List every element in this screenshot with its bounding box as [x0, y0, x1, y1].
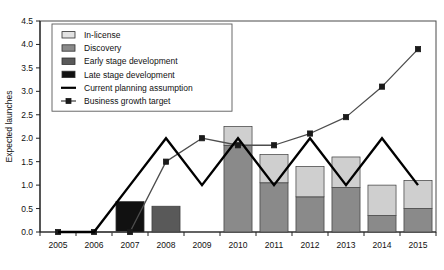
y-axis: 0.00.51.01.52.02.53.03.54.04.5: [21, 16, 40, 237]
bar-segment: [332, 187, 360, 232]
data-point-marker: [271, 143, 276, 148]
bar-group: [152, 206, 180, 232]
x-axis-tick-label: 2013: [337, 240, 356, 250]
bar-group: [296, 166, 324, 232]
data-point-marker: [415, 47, 420, 52]
bar-segment: [296, 197, 324, 232]
data-point-marker: [127, 229, 132, 234]
x-axis-tick-label: 2005: [49, 240, 68, 250]
bar-segment: [368, 185, 396, 215]
legend-swatch-box: [62, 32, 75, 38]
legend-swatch-box: [62, 45, 75, 51]
chart-figure: 0.00.51.01.52.02.53.03.54.04.5Expected l…: [0, 0, 444, 270]
x-axis-tick-label: 2014: [373, 240, 392, 250]
y-axis-title: Expected launches: [4, 91, 14, 163]
y-axis-tick-label: 2.0: [21, 133, 33, 143]
bar-segment: [260, 155, 288, 183]
data-point-marker: [343, 115, 348, 120]
data-point-marker: [199, 136, 204, 141]
y-axis-tick-label: 3.5: [21, 63, 33, 73]
legend-swatch-box: [62, 58, 75, 64]
x-axis: 2005200620072008200920102011201220132014…: [40, 232, 436, 250]
legend-item-label: Discovery: [84, 43, 122, 53]
y-axis-tick-label: 0.5: [21, 204, 33, 214]
chart-legend: In-licenseDiscoveryEarly stage developme…: [52, 24, 232, 111]
data-point-marker: [307, 131, 312, 136]
legend-item-label: In-license: [84, 30, 121, 40]
legend-item-label: Business growth target: [84, 96, 171, 106]
y-axis-tick-label: 4.5: [21, 16, 33, 26]
expected-launches-chart: 0.00.51.01.52.02.53.03.54.04.5Expected l…: [0, 0, 444, 270]
legend-item-label: Late stage development: [84, 70, 175, 80]
x-axis-tick-label: 2009: [193, 240, 212, 250]
y-axis-tick-label: 4.0: [21, 39, 33, 49]
legend-swatch-box: [62, 71, 75, 77]
bar-segment: [296, 166, 324, 196]
y-axis-tick-label: 1.5: [21, 157, 33, 167]
y-axis-tick-label: 0.0: [21, 227, 33, 237]
legend-item-label: Current planning assumption: [84, 83, 193, 93]
data-point-marker: [379, 84, 384, 89]
data-point-marker: [163, 159, 168, 164]
bar-group: [332, 157, 360, 232]
bar-group: [116, 202, 144, 232]
bar-group: [368, 185, 396, 232]
y-axis-tick-label: 1.0: [21, 180, 33, 190]
x-axis-tick-label: 2015: [409, 240, 428, 250]
x-axis-tick-label: 2011: [265, 240, 284, 250]
data-point-marker: [235, 143, 240, 148]
x-axis-tick-label: 2010: [229, 240, 248, 250]
y-axis-tick-label: 3.0: [21, 86, 33, 96]
x-axis-tick-label: 2008: [157, 240, 176, 250]
bar-group: [404, 180, 432, 232]
bar-segment: [116, 202, 144, 232]
y-axis-tick-label: 2.5: [21, 110, 33, 120]
x-axis-tick-label: 2007: [121, 240, 140, 250]
bar-segment: [404, 209, 432, 232]
legend-item-label: Early stage development: [84, 56, 178, 66]
x-axis-tick-label: 2006: [85, 240, 104, 250]
bar-group: [260, 155, 288, 232]
bar-segment: [368, 216, 396, 232]
x-axis-tick-label: 2012: [301, 240, 320, 250]
bar-segment: [260, 183, 288, 232]
bar-segment: [224, 145, 252, 232]
legend-swatch-marker: [66, 99, 71, 104]
bar-segment: [152, 206, 180, 232]
